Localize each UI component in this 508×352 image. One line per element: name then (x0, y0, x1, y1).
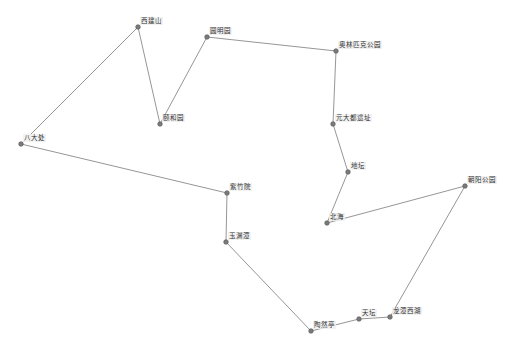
edge-yuyuantan-zizhuyuan (226, 193, 227, 242)
node-chaoyang[interactable] (463, 184, 468, 189)
edge-longtan-tiantan (359, 317, 390, 319)
node-beihai[interactable] (325, 221, 330, 226)
node-label-yuandadu: 元大都遗址 (335, 114, 372, 122)
node-label-longtan: 龙潭西湖 (392, 307, 422, 315)
node-label-yiheyuan: 颐和园 (162, 114, 185, 122)
route-graph (0, 0, 508, 352)
edge-zizhuyuan-badachu (21, 144, 227, 193)
node-yuyuantan[interactable] (224, 240, 229, 245)
node-label-tiantan: 天坛 (361, 309, 377, 317)
node-taoranting[interactable] (309, 329, 314, 334)
node-label-zizhuyuan: 紫竹院 (229, 183, 252, 191)
route-edges (21, 27, 465, 331)
node-yuanmingyuan[interactable] (205, 35, 210, 40)
node-label-badachu: 八大处 (23, 134, 46, 142)
edge-badachu-xijianshan (21, 27, 138, 144)
edge-xijianshan-yiheyuan (138, 27, 160, 124)
edge-beihai-chaoyang (327, 186, 465, 223)
node-label-beihai: 北海 (329, 213, 345, 221)
edge-yuanmingyuan-olympic (207, 37, 336, 51)
node-yiheyuan[interactable] (158, 122, 163, 127)
node-zizhuyuan[interactable] (225, 191, 230, 196)
edge-yuandadu-ditan (333, 124, 348, 172)
node-longtan[interactable] (388, 315, 393, 320)
node-label-chaoyang: 朝阳公园 (467, 176, 497, 184)
node-yuandadu[interactable] (331, 122, 336, 127)
node-label-yuyuantan: 玉渊潭 (228, 232, 251, 240)
node-badachu[interactable] (19, 142, 24, 147)
node-label-yuanmingyuan: 圆明园 (209, 27, 232, 35)
edge-yiheyuan-yuanmingyuan (160, 37, 207, 124)
node-label-xijianshan: 西建山 (140, 17, 163, 25)
edge-taoranting-yuyuantan (226, 242, 311, 331)
node-ditan[interactable] (346, 170, 351, 175)
edge-chaoyang-longtan (390, 186, 465, 317)
route-nodes (19, 25, 468, 334)
node-tiantan[interactable] (357, 317, 362, 322)
node-label-ditan: 地坛 (350, 162, 366, 170)
node-xijianshan[interactable] (136, 25, 141, 30)
node-label-taoranting: 陶然亭 (313, 321, 336, 329)
node-label-olympic: 奥林匹克公园 (338, 41, 382, 49)
node-olympic[interactable] (334, 49, 339, 54)
